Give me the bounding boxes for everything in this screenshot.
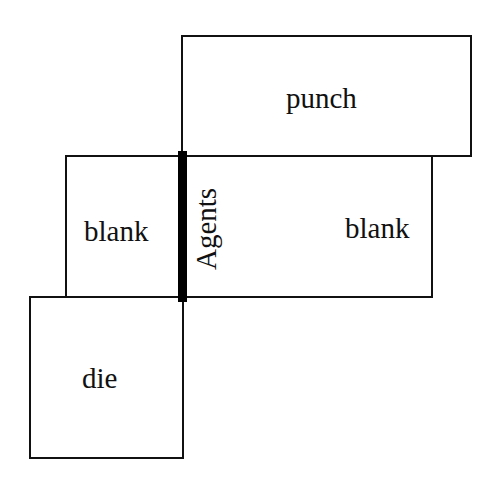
blank-left-label: blank: [84, 217, 148, 246]
punch-label: punch: [286, 84, 357, 113]
agents-label: Agents: [192, 188, 221, 270]
agents-interface-bar: [178, 151, 187, 302]
die-label: die: [82, 364, 117, 393]
diagram-canvas: punch blank blank die Agents: [0, 0, 496, 490]
blank-right-label: blank: [345, 214, 409, 243]
